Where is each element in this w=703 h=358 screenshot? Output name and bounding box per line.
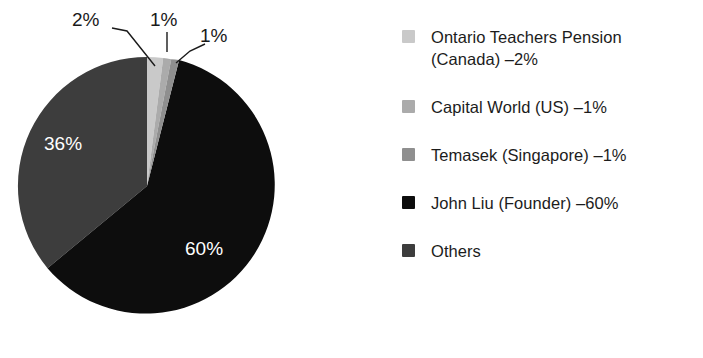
pie-chart-svg: 2% 1% 1% 36% 60%	[0, 0, 380, 358]
legend-item-temasek[interactable]: Temasek (Singapore) –1%	[402, 144, 703, 166]
legend-item-others[interactable]: Others	[402, 240, 703, 262]
pie-chart-area: 2% 1% 1% 36% 60%	[0, 0, 380, 358]
legend-swatch-icon-temasek	[402, 148, 415, 161]
pie-label-others-percent: 36%	[44, 133, 82, 154]
legend-label-temasek: Temasek (Singapore) –1%	[431, 144, 627, 166]
legend-swatch-icon-others	[402, 244, 415, 257]
pie-callout-label-2-percent: 2%	[72, 9, 100, 30]
chart-legend: Ontario Teachers Pension (Canada) –2% Ca…	[402, 26, 703, 262]
leader-line-one-percent-b	[176, 44, 205, 63]
legend-item-john-liu-founder[interactable]: John Liu (Founder) –60%	[402, 192, 703, 214]
legend-label-capital-world: Capital World (US) –1%	[431, 96, 607, 118]
legend-swatch-icon-capital-world	[402, 100, 415, 113]
pie-callout-label-1-percent-capital-world: 1%	[150, 9, 178, 30]
legend-swatch-icon-ontario-teachers-pension	[402, 30, 415, 43]
pie-callout-label-1-percent-temasek: 1%	[200, 25, 228, 46]
legend-label-ontario-teachers-pension: Ontario Teachers Pension (Canada) –2%	[431, 26, 679, 70]
legend-swatch-icon-john-liu-founder	[402, 196, 415, 209]
pie-chart-figure: 2% 1% 1% 36% 60% Ontario Teachers Pensio…	[0, 0, 703, 358]
legend-label-others: Others	[431, 240, 481, 262]
legend-item-ontario-teachers-pension[interactable]: Ontario Teachers Pension (Canada) –2%	[402, 26, 703, 70]
legend-label-john-liu-founder: John Liu (Founder) –60%	[431, 192, 618, 214]
legend-item-capital-world[interactable]: Capital World (US) –1%	[402, 96, 703, 118]
pie-label-founder-percent: 60%	[185, 238, 223, 259]
